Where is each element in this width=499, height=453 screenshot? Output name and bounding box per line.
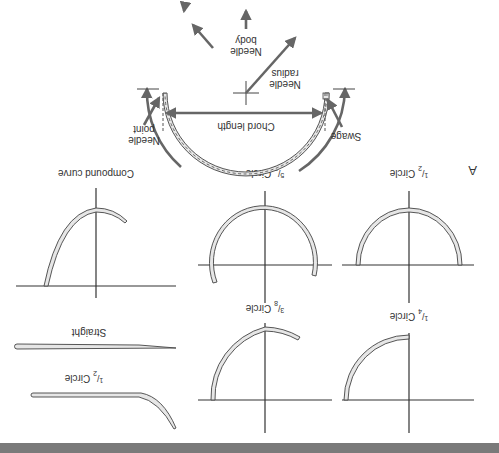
needle-anatomy-diagram: Needleradius Needlebody Chord length Swa…: [128, 5, 362, 176]
needle-body-label: Needlebody: [230, 35, 262, 57]
straight-needle-diagram: Straight: [15, 327, 177, 349]
quarter-circle-label: 1/4 Circle: [389, 309, 428, 323]
five-eighths-circle-diagram: 5/8 Circle: [198, 166, 332, 304]
quarter-circle-diagram: 1/4 Circle: [342, 309, 474, 434]
compound-curve-label: Compound curve: [57, 168, 134, 179]
needle-shapes-figure: 1/4 Circle 3/8 Circle 1/2 Circle Straigh…: [0, 0, 499, 453]
swage-label: Swage: [330, 131, 361, 142]
half-curved-label: 1/2 Circle: [64, 371, 103, 385]
chord-length-label: Chord length: [217, 121, 274, 132]
needle-radius-label: Needleradius: [269, 68, 301, 90]
compound-curve-diagram: Compound curve: [16, 168, 176, 298]
panel-label: A: [468, 163, 477, 178]
half-circle-diagram: 1/2 Circle: [342, 166, 474, 304]
straight-label: Straight: [72, 327, 107, 338]
half-curved-needle-diagram: 1/2 Circle: [31, 371, 176, 430]
three-eighths-circle-diagram: 3/8 Circle: [198, 301, 332, 434]
needle-point-label: Needlepoint: [128, 124, 160, 146]
half-circle-label: 1/2 Circle: [389, 166, 428, 180]
frame-bar: [0, 443, 499, 453]
